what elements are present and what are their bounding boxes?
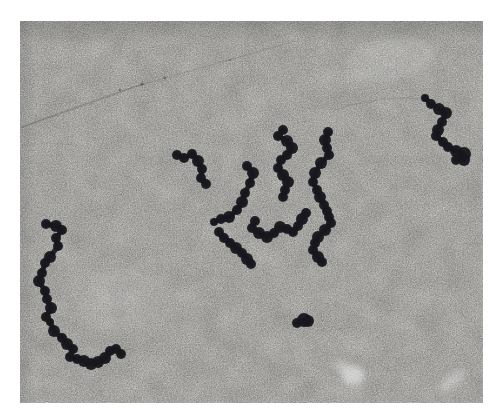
bead xyxy=(57,225,67,235)
bead xyxy=(197,164,207,174)
bead xyxy=(451,155,461,165)
light-smudge xyxy=(80,270,160,330)
bead xyxy=(324,150,334,160)
scratch-dot xyxy=(229,59,231,61)
light-smudge xyxy=(334,360,348,372)
bead xyxy=(315,157,327,169)
bead xyxy=(33,275,45,287)
scratch-dot xyxy=(164,77,166,79)
bead xyxy=(41,219,51,229)
scratch-dot xyxy=(140,82,143,85)
bead xyxy=(247,167,259,179)
bead xyxy=(245,178,255,188)
film-area xyxy=(20,21,483,403)
bead xyxy=(210,218,218,226)
bead xyxy=(46,318,54,326)
bead xyxy=(278,192,288,202)
film-left-shade xyxy=(20,21,36,403)
photo-page xyxy=(0,0,504,420)
bead xyxy=(201,179,211,189)
bead xyxy=(53,241,63,251)
film-light-grain xyxy=(20,21,483,403)
bead xyxy=(317,257,327,267)
bead xyxy=(302,315,314,327)
bead xyxy=(40,258,50,268)
bead xyxy=(309,167,321,179)
bead xyxy=(301,208,311,218)
scratch-dot xyxy=(119,89,121,91)
bead xyxy=(116,349,126,359)
micrograph-canvas xyxy=(0,0,504,420)
bead xyxy=(246,259,256,269)
electron-micrograph xyxy=(0,0,504,420)
